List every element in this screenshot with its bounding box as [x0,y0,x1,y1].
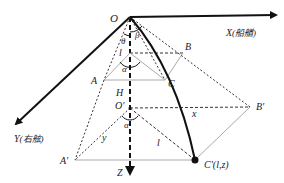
label-alpha-lower: α [124,120,129,130]
cable-curve [130,17,195,160]
label-B: B [185,41,191,52]
x-axis [130,15,276,17]
label-y-axis: Y(右舷) [14,133,44,144]
label-beta: β [134,30,140,40]
label-Z: Z [117,167,123,178]
label-Oprime: O' [115,100,125,111]
line-Oprime-Cprime [130,108,195,160]
label-Cprime: C'(l,z) [204,159,229,171]
label-alpha-upper: α [122,64,127,74]
label-theta: θ [121,36,126,46]
label-l-upper: l [119,47,122,58]
geometry-diagram: O X(船艏) Y(右舷) Z β θ l α A B C H O' α A' … [0,0,284,183]
line-Oprime-Bprime [130,107,250,108]
label-H: H [115,87,124,98]
label-x-axis: X(船艏) [225,27,256,38]
line-O-Aprime-dashed [75,80,104,160]
label-A: A [90,75,98,86]
label-Aprime: A' [59,155,69,166]
label-O: O [110,12,118,24]
z-axis-arrowhead [125,166,135,176]
label-x-segment: x [191,108,197,119]
label-y-segment: y [101,132,107,143]
line-O-C-dashed [130,17,165,80]
point-Cprime [192,157,199,164]
point-Oprime [129,107,132,110]
label-Bprime: B' [256,101,265,112]
label-C: C [168,78,175,89]
label-l-lower: l [157,137,160,148]
line-Bprime-Cprime [195,107,250,160]
